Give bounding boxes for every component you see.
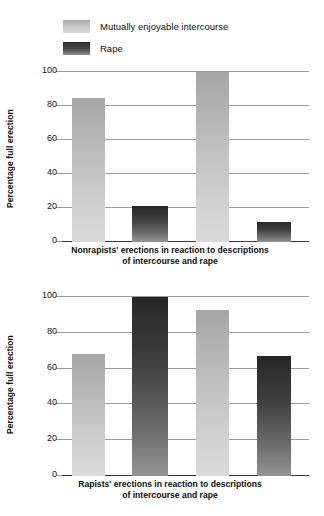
chart-caption-line-1: Nonrapists' erections in reaction to des… [28,245,312,256]
plot-area: 100 80 60 40 20 0 [62,72,309,242]
legend-item: Mutually enjoyable intercourse [63,17,303,35]
y-tick-label-100: 100 [42,65,57,76]
legend-item: Rape [63,39,303,57]
bar-intercourse-1 [72,354,105,476]
chart-legend: Mutually enjoyable intercourse Rape [63,17,303,61]
y-tick-label-80: 80 [47,326,57,337]
y-tick-label-40: 40 [47,397,57,408]
bar-group [62,72,309,242]
chart-caption: Rapists' erections in reaction to descri… [28,479,312,501]
chart-caption-line-2: of intercourse and rape [28,256,312,267]
legend-swatch-light-gray-gradient-swatch [63,20,90,33]
legend-item-label: Mutually enjoyable intercourse [100,21,228,32]
chart-caption-line-2: of intercourse and rape [28,490,312,501]
y-tick-label-20: 20 [47,433,57,444]
y-tick-label-100: 100 [42,290,57,301]
legend-item-label: Rape [100,43,123,54]
bar-group [62,297,309,476]
bar-intercourse-1 [72,98,105,243]
bar-rape-1 [132,206,168,242]
chart-caption: Nonrapists' erections in reaction to des… [28,245,312,267]
y-tick-label-60: 60 [47,362,57,373]
y-tick-label-20: 20 [47,201,57,212]
y-tick-label-40: 40 [47,167,57,178]
y-tick-label-80: 80 [47,99,57,110]
plot-area: 100 80 60 40 20 0 [62,297,309,476]
y-axis-label: Percentage full erection [5,80,19,238]
bar-rape-2 [257,356,291,476]
bar-intercourse-2 [196,72,229,242]
y-axis-label: Percentage full erection [5,301,19,469]
legend-swatch-dark-gray-gradient-swatch [63,42,90,55]
chart-rapists: Percentage full erection 100 80 60 40 20… [0,287,324,492]
y-tick-label-60: 60 [47,133,57,144]
chart-nonrapists: Percentage full erection 100 80 60 40 20… [0,62,324,252]
chart-caption-line-1: Rapists' erections in reaction to descri… [28,479,312,490]
bar-rape-1 [132,297,168,476]
bar-rape-2 [257,222,291,242]
bar-intercourse-2 [196,310,229,476]
